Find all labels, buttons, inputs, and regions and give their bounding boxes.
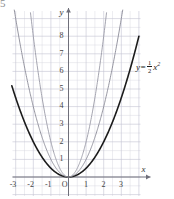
fraction-denominator: 2 xyxy=(147,67,152,74)
y-tick-label-7: 7 xyxy=(60,49,64,58)
y-tick-label-3: 3 xyxy=(60,119,64,128)
x-tick-label-2: 2 xyxy=(102,180,106,189)
y-tick-label-6: 6 xyxy=(60,66,64,75)
y-axis-name: y xyxy=(60,7,64,17)
equation-annotation: y=12x2 xyxy=(136,60,160,74)
equation-exponent: 2 xyxy=(157,61,160,67)
equation-fraction: 12 xyxy=(147,60,152,74)
x-tick-label-neg2: -2 xyxy=(27,180,34,189)
x-axis-name: x xyxy=(142,164,146,174)
equation-equals: = xyxy=(140,62,146,72)
x-tick-label-neg3: -3 xyxy=(10,180,17,189)
y-tick-label-8: 8 xyxy=(60,31,64,40)
fraction-numerator: 1 xyxy=(147,60,152,67)
y-tick-label-5: 5 xyxy=(60,84,64,93)
y-tick-label-1: 1 xyxy=(60,154,64,163)
origin-label: O xyxy=(62,180,68,189)
graph-canvas xyxy=(0,0,174,199)
parabola-curves xyxy=(12,10,139,177)
y-tick-label-2: 2 xyxy=(60,137,64,146)
y-tick-label-4: 4 xyxy=(60,101,64,110)
figure-container: 5 y=12x2 -3-2-1123O12345678 x y xyxy=(0,0,174,199)
x-tick-label-1: 1 xyxy=(84,180,88,189)
x-tick-label-neg1: -1 xyxy=(45,180,52,189)
x-tick-label-3: 3 xyxy=(119,180,123,189)
